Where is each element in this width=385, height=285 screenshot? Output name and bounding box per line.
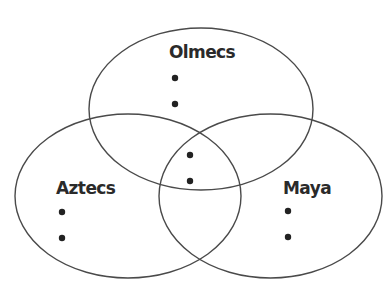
maya-bullet-2 <box>285 234 291 240</box>
overlap-bullet-1 <box>187 152 193 158</box>
maya-circle <box>159 114 382 278</box>
aztecs-label: Aztecs <box>56 180 115 197</box>
olmecs-label: Olmecs <box>169 44 235 61</box>
aztecs-circle <box>15 114 241 278</box>
maya-label: Maya <box>283 180 331 197</box>
aztecs-bullet-2 <box>59 235 65 241</box>
aztecs-bullet-1 <box>59 209 65 215</box>
maya-bullet-1 <box>285 208 291 214</box>
olmecs-bullet-1 <box>172 75 178 81</box>
overlap-bullet-2 <box>187 178 193 184</box>
olmecs-bullet-2 <box>172 101 178 107</box>
